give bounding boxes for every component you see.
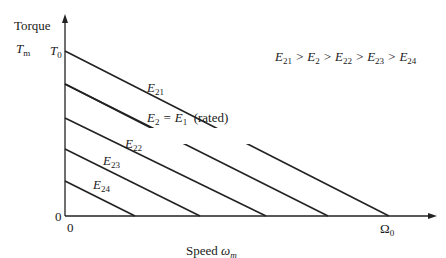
y-axis-symbol: Tm [16, 42, 30, 58]
e22-symbol: E [125, 136, 133, 151]
omega0-symbol: Ω [380, 221, 390, 236]
y-origin-label: 0 [55, 210, 62, 223]
rated-note: (rated) [194, 110, 229, 125]
label-e22: E22 [125, 137, 142, 153]
line-e2-rated-full [65, 84, 328, 216]
e22-sub: 22 [133, 143, 142, 153]
y-symbol-sub: m [23, 48, 30, 58]
e2-symbol: E [147, 110, 155, 125]
label-e21: E21 [147, 81, 164, 97]
e24-sub: 24 [101, 184, 110, 194]
e24-symbol: E [93, 177, 101, 192]
x-symbol-sub: m [230, 250, 237, 258]
x-axis-arrow-icon [428, 213, 437, 219]
e21-symbol: E [147, 80, 155, 95]
label-e23: E23 [103, 154, 120, 170]
e23-sub: 23 [111, 160, 120, 170]
x-origin-label: 0 [67, 221, 74, 234]
label-e2-rated: E2 = E1 (rated) [147, 111, 228, 127]
voltage-inequality: E21 > E2 > E22 > E23 > E24 [275, 50, 416, 66]
line-e23 [65, 149, 200, 216]
y-axis-label: Torque [14, 19, 51, 32]
x-axis-label: Speed ωm [186, 244, 237, 258]
e23-symbol: E [103, 153, 111, 168]
t0-tick-label: T0 [50, 44, 62, 60]
label-e24: E24 [93, 178, 110, 194]
omega0-sub: 0 [390, 228, 395, 238]
x-label-text: Speed [186, 243, 218, 258]
omega0-tick-label: Ω0 [380, 222, 394, 238]
t0-sub: 0 [57, 50, 62, 60]
rated-label-mask [148, 128, 252, 144]
e1-sub: 1 [183, 117, 188, 127]
x-symbol: ω [221, 243, 230, 258]
e1-symbol: = E [159, 110, 182, 125]
y-axis-arrow-icon [62, 14, 68, 23]
e21-sub: 21 [155, 87, 164, 97]
